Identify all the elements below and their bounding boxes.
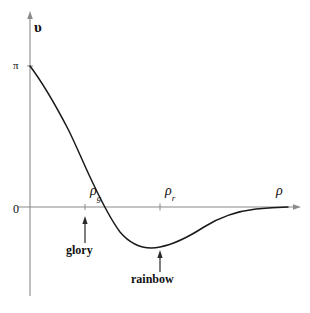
x-axis-arrowhead — [293, 204, 301, 209]
y-axis-label: υ — [34, 20, 42, 35]
deflection-curve — [30, 66, 288, 248]
rho-g-subscript: g — [97, 193, 102, 203]
glory-arrow — [82, 216, 87, 243]
y-axis-arrowhead — [27, 11, 33, 19]
plot-canvas — [0, 0, 310, 313]
rainbow-arrow — [157, 250, 162, 272]
rho-r-subscript: r — [172, 193, 176, 203]
rho-r-symbol: ρ — [165, 183, 172, 198]
x-axis-label: ρ — [276, 184, 283, 198]
rho-g-symbol: ρ — [90, 183, 97, 198]
deflection-function-figure: υ π 0 ρ ρg ρr glory rainbow — [0, 0, 310, 313]
rho-g-label: ρg — [90, 184, 101, 201]
pi-tick-label: π — [13, 60, 19, 71]
rho-r-label: ρr — [165, 184, 175, 201]
glory-label: glory — [66, 244, 93, 256]
rainbow-label: rainbow — [131, 273, 174, 285]
origin-label: 0 — [13, 203, 19, 215]
